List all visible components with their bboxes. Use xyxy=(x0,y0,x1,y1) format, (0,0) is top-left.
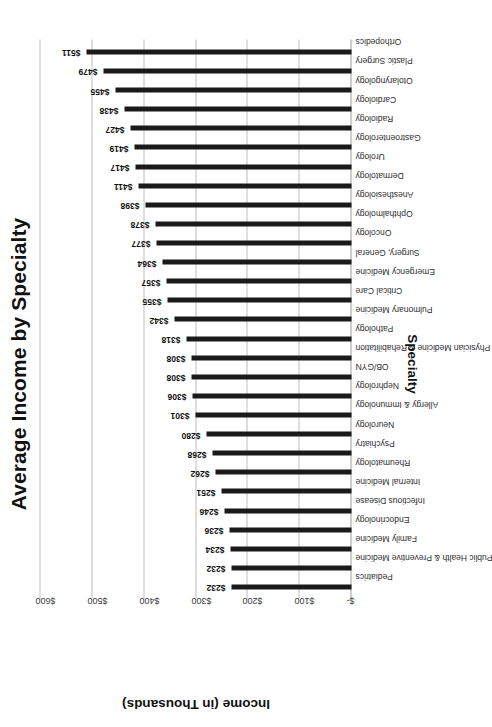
bar[interactable] xyxy=(191,374,351,379)
bar-value-label: $411 xyxy=(114,181,132,191)
bar[interactable] xyxy=(130,125,351,130)
bar-slot[interactable]: $306 xyxy=(40,386,351,405)
category-axis-tick-label: Orthopedics xyxy=(355,36,401,46)
bar[interactable] xyxy=(145,202,351,207)
bar-value-label: $479 xyxy=(78,67,97,77)
category-axis-title: Specialty xyxy=(404,0,419,727)
bar-value-label: $268 xyxy=(187,449,206,459)
bar[interactable] xyxy=(221,488,351,493)
bar[interactable] xyxy=(229,527,351,532)
bar[interactable] xyxy=(162,259,351,264)
bar[interactable] xyxy=(195,412,351,417)
bar-value-label: $355 xyxy=(142,296,161,306)
bar-slot[interactable]: $318 xyxy=(40,328,351,347)
bar-value-label: $236 xyxy=(204,525,223,535)
bar-value-label: $357 xyxy=(141,277,160,287)
bar-slot[interactable]: $262 xyxy=(40,462,351,481)
bar-value-label: $342 xyxy=(149,315,168,325)
bar-value-label: $308 xyxy=(166,372,185,382)
bar-slot[interactable]: $417 xyxy=(40,156,351,175)
bar[interactable] xyxy=(191,355,351,360)
bar[interactable] xyxy=(155,221,351,226)
bar-slot[interactable]: $251 xyxy=(40,481,351,500)
bar-slot[interactable]: $479 xyxy=(40,61,351,80)
bar[interactable] xyxy=(134,144,351,149)
bar-value-label: $419 xyxy=(109,143,128,153)
bar-slot[interactable]: $236 xyxy=(40,520,351,539)
bar-value-label: $427 xyxy=(105,124,124,134)
bar[interactable] xyxy=(115,87,351,92)
bar-slot[interactable]: $419 xyxy=(40,137,351,156)
bar-value-label: $438 xyxy=(99,105,118,115)
bar-slot[interactable]: $411 xyxy=(40,176,351,195)
bar[interactable] xyxy=(230,546,351,551)
bar-slot[interactable]: $427 xyxy=(40,118,351,137)
bar-slot[interactable]: $232 xyxy=(40,558,351,577)
bar-slot[interactable]: $280 xyxy=(40,424,351,443)
bar-value-label: $234 xyxy=(205,544,224,554)
bar[interactable] xyxy=(86,49,351,54)
bar[interactable] xyxy=(166,278,351,283)
bar-slot[interactable]: $357 xyxy=(40,271,351,290)
bar-value-label: $398 xyxy=(120,200,139,210)
bar-value-label: $378 xyxy=(130,219,149,229)
bar[interactable] xyxy=(231,565,351,570)
bar-value-label: $364 xyxy=(137,258,156,268)
bar-value-label: $232 xyxy=(206,582,225,592)
bar-slot[interactable]: $234 xyxy=(40,539,351,558)
bar-slot[interactable]: $355 xyxy=(40,290,351,309)
bar[interactable] xyxy=(224,508,352,513)
bar[interactable] xyxy=(174,316,351,321)
bar-value-label: $262 xyxy=(190,468,209,478)
bar-value-label: $455 xyxy=(90,86,109,96)
bar[interactable] xyxy=(138,183,351,188)
bar-slot[interactable]: $377 xyxy=(40,233,351,252)
bar-slot[interactable]: $301 xyxy=(40,405,351,424)
bar-value-label: $301 xyxy=(170,410,189,420)
bar-value-label: $511 xyxy=(62,47,80,57)
bar-slot[interactable]: $268 xyxy=(40,443,351,462)
chart-title: Average Income by Specialty xyxy=(6,0,30,727)
bar-slot[interactable]: $438 xyxy=(40,99,351,118)
bar[interactable] xyxy=(212,450,351,455)
bar-slot[interactable]: $364 xyxy=(40,252,351,271)
bar-slot[interactable]: $378 xyxy=(40,214,351,233)
bar-slot[interactable]: $246 xyxy=(40,500,351,519)
bar[interactable] xyxy=(156,240,351,245)
bar-slot[interactable]: $455 xyxy=(40,80,351,99)
value-axis-title-text: Income (in Thousands) xyxy=(122,696,270,711)
bar[interactable] xyxy=(167,297,351,302)
bar-value-label: $318 xyxy=(161,334,180,344)
bar-slot[interactable]: $511 xyxy=(40,42,351,61)
bar[interactable] xyxy=(206,431,351,436)
bar[interactable] xyxy=(186,336,351,341)
bar-value-label: $377 xyxy=(131,238,150,248)
value-axis-title: Income (in Thousands) xyxy=(40,695,351,713)
bar-slot[interactable]: $308 xyxy=(40,348,351,367)
bar[interactable] xyxy=(124,106,351,111)
bar-slot[interactable]: $398 xyxy=(40,195,351,214)
bar-slot[interactable]: $342 xyxy=(40,309,351,328)
bar-value-label: $417 xyxy=(110,162,129,172)
bar-value-label: $306 xyxy=(167,391,186,401)
bar-value-label: $308 xyxy=(166,353,185,363)
bar-value-label: $251 xyxy=(196,487,215,497)
bar[interactable] xyxy=(135,164,351,169)
bar-slot[interactable]: $308 xyxy=(40,367,351,386)
bar[interactable] xyxy=(231,584,351,589)
bar-value-label: $232 xyxy=(206,563,225,573)
bar-slot[interactable]: $232 xyxy=(40,577,351,596)
bar-value-label: $280 xyxy=(181,430,200,440)
bar-value-label: $246 xyxy=(199,506,218,516)
bar-series: $232$232$234$236$246$251$262$268$280$301… xyxy=(40,39,351,599)
bar[interactable] xyxy=(215,469,351,474)
plot-area: $232$232$234$236$246$251$262$268$280$301… xyxy=(40,39,351,599)
bar[interactable] xyxy=(192,393,351,398)
bar[interactable] xyxy=(103,68,351,73)
